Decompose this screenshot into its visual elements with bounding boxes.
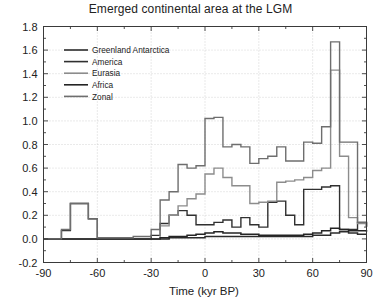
x-tick-labels: -90-60-300306090 <box>36 267 373 279</box>
x-axis-title: Time (kyr BP) <box>169 285 239 297</box>
chart-legend: Greenland AntarcticaAmericaEurasiaAfrica… <box>64 45 170 101</box>
chart-figure: Emerged continental area at the LGM -90-… <box>0 0 381 306</box>
y-tick-label: 0.0 <box>22 233 37 245</box>
legend-label: Greenland Antarctica <box>92 45 170 55</box>
y-tick-label: 0.6 <box>22 162 37 174</box>
y-tick-labels: -0.20.00.20.40.60.81.01.21.41.61.8 <box>19 21 38 269</box>
y-tick-label: -0.2 <box>19 257 38 269</box>
y-tick-label: 1.6 <box>22 44 37 56</box>
y-tick-label: 1.0 <box>22 115 37 127</box>
x-tick-label: -90 <box>36 267 52 279</box>
y-tick-label: 0.4 <box>22 186 37 198</box>
legend-label: Africa <box>92 80 114 90</box>
y-tick-label: 1.4 <box>22 68 37 80</box>
x-tick-label: -60 <box>89 267 105 279</box>
legend-label: Eurasia <box>92 68 121 78</box>
y-tick-label: 0.2 <box>22 209 37 221</box>
x-tick-label: 30 <box>253 267 265 279</box>
y-tick-label: 1.2 <box>22 91 37 103</box>
legend-label: America <box>92 57 123 67</box>
x-tick-label: 0 <box>202 267 208 279</box>
legend-label: Zonal <box>92 92 113 102</box>
y-tick-label: 1.8 <box>22 21 37 33</box>
x-tick-label: 60 <box>307 267 319 279</box>
x-tick-label: -30 <box>143 267 159 279</box>
plot-area: -90-60-300306090 -0.20.00.20.40.60.81.01… <box>0 0 381 306</box>
y-tick-label: 0.8 <box>22 139 37 151</box>
x-tick-label: 90 <box>360 267 372 279</box>
